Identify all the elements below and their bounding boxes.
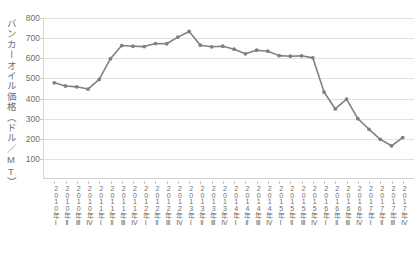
x-tick-mark [133,181,134,184]
x-tick-mark [77,181,78,184]
data-point [333,107,337,111]
series-path [54,31,403,145]
x-tick-mark [189,181,190,184]
data-point [198,43,202,47]
data-point [86,87,90,91]
x-tick-mark [223,181,224,184]
data-point [322,90,326,94]
x-tick-label: 2015年Ⅰ [274,185,285,226]
data-point [232,47,236,51]
data-point [255,48,259,52]
x-tick-mark [200,181,201,184]
data-point [154,42,158,46]
y-tick-mark [39,78,43,79]
x-tick-label: 2010年Ⅱ [60,185,71,226]
x-tick-label: 2013年Ⅰ [184,185,195,226]
x-axis-labels: 2010年Ⅰ2010年Ⅱ2010年Ⅲ2010年Ⅳ2011年Ⅰ2011年Ⅱ2011… [43,181,414,265]
x-tick-label: 2016年Ⅳ [352,185,363,226]
data-point [210,45,214,49]
data-point [64,84,68,88]
data-point [378,137,382,141]
y-tick-mark [39,139,43,140]
x-tick-mark [302,181,303,184]
y-tick-label: 300 [10,115,40,124]
x-tick-mark [155,181,156,184]
x-tick-mark [403,181,404,184]
x-tick-label: 2017年Ⅱ [375,185,386,226]
x-tick-mark [268,181,269,184]
data-point [165,42,169,46]
x-tick-mark [66,181,67,184]
data-point [356,117,360,121]
y-tick-label: 600 [10,54,40,63]
data-point [367,127,371,131]
x-tick-label: 2014年Ⅲ [251,185,262,226]
x-tick-mark [122,181,123,184]
data-point [345,97,349,101]
x-tick-mark [392,181,393,184]
x-tick-mark [54,181,55,184]
x-tick-label: 2015年Ⅱ [285,185,296,226]
x-tick-label: 2011年Ⅳ [127,185,138,226]
x-tick-label: 2014年Ⅱ [240,185,251,226]
x-tick-mark [324,181,325,184]
data-point [288,54,292,58]
data-point [109,57,113,61]
x-tick-label: 2011年Ⅰ [94,185,105,226]
x-tick-mark [144,181,145,184]
x-tick-label: 2012年Ⅰ [139,185,150,226]
data-point [120,44,124,48]
data-point [300,54,304,58]
x-tick-mark [290,181,291,184]
data-point [390,144,394,148]
y-tick-label: 200 [10,135,40,144]
x-tick-label: 2011年Ⅲ [116,185,127,226]
y-tick-mark [39,119,43,120]
x-tick-label: 2014年Ⅰ [229,185,240,226]
x-tick-label: 2010年Ⅳ [83,185,94,226]
y-tick-mark [39,99,43,100]
x-tick-mark [234,181,235,184]
x-tick-label: 2014年Ⅳ [262,185,273,226]
x-tick-label: 2010年Ⅰ [49,185,60,226]
y-tick-label: 100 [10,155,40,164]
data-point [187,30,191,34]
x-tick-label: 2017年Ⅲ [386,185,397,226]
x-tick-label: 2010年Ⅲ [71,185,82,226]
data-point [401,136,405,140]
x-tick-mark [369,181,370,184]
data-point [142,45,146,49]
x-tick-label: 2016年Ⅰ [319,185,330,226]
x-tick-mark [88,181,89,184]
x-tick-mark [335,181,336,184]
y-tick-mark [39,38,43,39]
data-point [97,77,101,81]
x-tick-mark [313,181,314,184]
x-tick-mark [212,181,213,184]
data-point [311,56,315,60]
x-tick-label: 2013年Ⅳ [217,185,228,226]
x-tick-mark [178,181,179,184]
x-tick-label: 2017年Ⅰ [364,185,375,226]
data-point [75,85,79,89]
x-tick-mark [279,181,280,184]
bunker-oil-price-chart: バンカーオイル価格（ドル／MT） 2010年Ⅰ2010年Ⅱ2010年Ⅲ2010年… [0,0,419,265]
x-tick-label: 2013年Ⅲ [206,185,217,226]
series-line [43,18,414,179]
x-tick-label: 2017年Ⅳ [397,185,408,226]
x-tick-mark [257,181,258,184]
y-tick-label: 500 [10,74,40,83]
data-point [277,54,281,58]
y-tick-label: 400 [10,95,40,104]
x-tick-mark [111,181,112,184]
data-point [176,35,180,39]
data-point [52,81,56,85]
x-tick-label: 2016年Ⅲ [341,185,352,226]
y-tick-mark [39,159,43,160]
data-point [221,44,225,48]
x-tick-label: 2016年Ⅱ [330,185,341,226]
x-tick-mark [358,181,359,184]
data-point [131,44,135,48]
x-tick-label: 2015年Ⅲ [296,185,307,226]
x-tick-label: 2013年Ⅱ [195,185,206,226]
